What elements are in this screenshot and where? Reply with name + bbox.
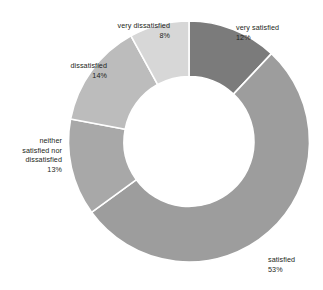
slice-callout-percent: 8% xyxy=(60,31,170,40)
slice-callout-dissatisfied: dissatisfied 14% xyxy=(24,52,107,90)
slice-callout-label: neither satisfied nor dissatisfied xyxy=(22,136,62,164)
slice-callout-very-dissatisfied: very dissatisfied 8% xyxy=(60,12,170,50)
slice-callout-label: dissatisfied xyxy=(70,61,107,70)
slice-callout-very-satisfied: very satisfied 12% xyxy=(236,14,320,52)
donut-chart: very satisfied 12% satisfied 53% neither… xyxy=(0,0,323,290)
slice-callout-satisfied: satisfied 53% xyxy=(268,246,323,284)
slice-callout-percent: 12% xyxy=(236,33,320,42)
slice-callout-label: very dissatisfied xyxy=(118,21,171,30)
slice-callout-percent: 13% xyxy=(2,165,62,174)
slice-callout-neither: neither satisfied nor dissatisfied 13% xyxy=(2,127,62,183)
slice-callout-label: satisfied xyxy=(268,255,295,264)
slice-callout-percent: 14% xyxy=(24,71,107,80)
slice-callout-label: very satisfied xyxy=(236,23,279,32)
slice-callout-percent: 53% xyxy=(268,265,323,274)
